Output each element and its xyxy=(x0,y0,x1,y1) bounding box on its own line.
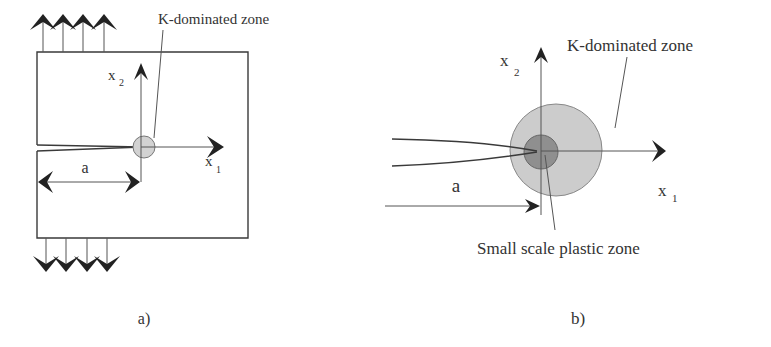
fracture-mechanics-figure: x 2 x 1 a xyxy=(0,0,771,347)
k-zone-leader-line xyxy=(154,30,163,138)
x2-axis-label: x xyxy=(500,51,509,70)
panel-a: x 2 x 1 a xyxy=(30,11,270,328)
x1-axis-label: x xyxy=(658,181,667,200)
small-scale-plastic-zone-label: Small scale plastic zone xyxy=(477,239,640,258)
k-dominated-zone-label: K-dominated zone xyxy=(567,36,693,55)
crack-length-label: a xyxy=(452,175,461,196)
crack-lower-face xyxy=(37,147,142,151)
x1-axis-label: x xyxy=(205,153,213,169)
x2-axis-subscript: 2 xyxy=(514,66,520,78)
crack-length-label: a xyxy=(81,159,88,176)
x2-axis-subscript: 2 xyxy=(119,77,124,88)
x1-axis-subscript: 1 xyxy=(672,192,678,204)
top-load-arrows xyxy=(30,14,117,52)
bottom-load-arrows xyxy=(33,238,120,272)
panel-b: x 2 x 1 a K-dominated zone Small scale p… xyxy=(385,36,693,328)
panel-a-caption: a) xyxy=(138,310,150,328)
crack-upper-face xyxy=(37,145,142,147)
panel-b-caption: b) xyxy=(571,309,585,328)
x1-axis-subscript: 1 xyxy=(216,164,221,175)
k-dominated-zone-label: K-dominated zone xyxy=(158,11,270,27)
k-zone-leader-line xyxy=(615,57,627,128)
x2-axis-label: x xyxy=(108,67,116,83)
